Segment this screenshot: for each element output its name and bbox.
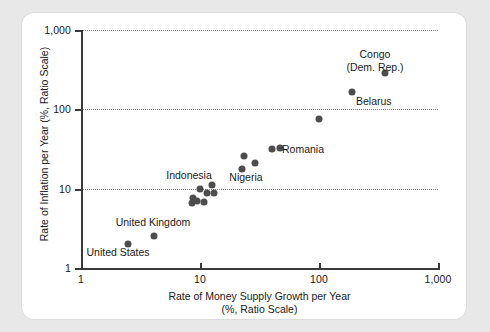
congo-label-line1: Congo (346, 48, 403, 61)
gridline-100 (81, 109, 438, 110)
chart-card: 1,000 100 10 1 1 10 100 1,000 Rate of In… (22, 13, 466, 319)
data-point-9 (210, 190, 217, 197)
x-tick-1000 (438, 263, 440, 270)
x-tick-label-100: 100 (294, 273, 344, 285)
data-point-11 (241, 152, 248, 159)
y-axis-title: Rate of Inflation per Year (%, Ratio Sca… (38, 34, 50, 254)
congo-label-line2: (Dem. Rep.) (346, 61, 403, 74)
indonesia-label: Indonesia (166, 169, 212, 182)
x-tick-label-1: 1 (56, 273, 106, 285)
x-tick-10 (200, 263, 202, 270)
y-tick-100 (75, 109, 82, 111)
romania-label: Romania (282, 143, 324, 156)
x-tick-100 (319, 263, 321, 270)
nigeria-label: Nigeria (229, 171, 262, 184)
data-point-15 (316, 116, 323, 123)
data-point-8 (208, 181, 215, 188)
data-point-5 (197, 186, 204, 193)
y-tick-10 (75, 189, 82, 191)
x-tick-1 (81, 263, 83, 270)
x-axis-title-line2: (%, Ratio Scale) (81, 303, 438, 316)
gridline-1000 (81, 30, 438, 31)
united-states-label: United States (86, 246, 149, 259)
chart-screenshot: 1,000 100 10 1 1 10 100 1,000 Rate of In… (0, 0, 490, 332)
x-axis-title: Rate of Money Supply Growth per Year (%,… (81, 290, 438, 316)
x-axis-line (81, 268, 438, 270)
data-point-belarus (349, 89, 356, 96)
congo-label: Congo(Dem. Rep.) (346, 48, 403, 73)
y-axis-line (81, 30, 83, 269)
x-axis-title-line1: Rate of Money Supply Growth per Year (81, 290, 438, 303)
united-kingdom-label: United Kingdom (116, 216, 191, 229)
x-tick-label-1000: 1,000 (413, 273, 463, 285)
y-tick-1000 (75, 30, 82, 32)
data-point-6 (200, 199, 207, 206)
data-point-united-kingdom (150, 233, 157, 240)
scatter-plot-area: 1,000 100 10 1 1 10 100 1,000 Rate of In… (22, 13, 466, 319)
gridline-10 (81, 189, 438, 190)
data-point-13 (268, 145, 275, 152)
data-point-nigeria (252, 160, 259, 167)
belarus-label: Belarus (356, 95, 392, 108)
x-tick-label-10: 10 (175, 273, 225, 285)
